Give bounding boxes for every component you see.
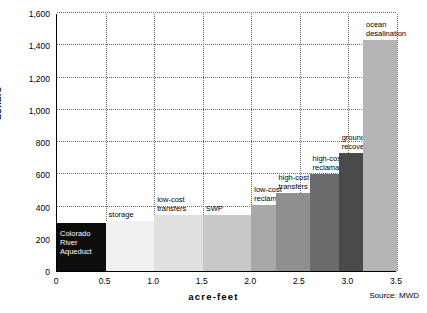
y-axis-tick: 1,400	[29, 41, 50, 51]
x-axis-tick: 0.5	[99, 276, 111, 286]
x-axis-tick: 2.0	[244, 276, 256, 286]
x-axis-tick: 3.0	[342, 276, 354, 286]
bar	[276, 193, 310, 271]
grid-line-horizontal	[57, 109, 396, 110]
bar	[251, 205, 275, 271]
x-axis-tick: 1.5	[196, 276, 208, 286]
x-axis-title: acre-feet	[0, 291, 427, 302]
y-axis-tick: 800	[36, 138, 50, 148]
y-axis-tick: 1,000	[29, 106, 50, 116]
bar	[363, 40, 397, 271]
y-axis-tick: 200	[36, 235, 50, 245]
plot-area: Colorado River Aqueductstoragelow-cost t…	[56, 14, 396, 272]
water-supply-cost-chart: dollars 02004006008001,0001,2001,4001,60…	[0, 0, 427, 313]
x-axis-tick: 1.0	[147, 276, 159, 286]
y-axis-tick: 600	[36, 170, 50, 180]
x-axis-tick: 2.5	[293, 276, 305, 286]
y-axis-tick-labels: 02004006008001,0001,2001,4001,600	[0, 14, 50, 272]
bar	[339, 153, 363, 271]
x-axis-tick: 3.5	[390, 276, 402, 286]
y-axis-tick: 1,200	[29, 74, 50, 84]
bar-label: ocean desalination	[366, 20, 426, 38]
x-axis-tick-labels: 00.51.01.52.02.53.03.5	[56, 276, 396, 290]
y-axis-tick: 0	[45, 267, 50, 277]
grid-line-horizontal	[57, 44, 396, 45]
grid-line-vertical	[397, 14, 398, 271]
source-note: Source: MWD	[369, 291, 419, 300]
y-axis-tick: 400	[36, 203, 50, 213]
x-axis-tick: 0	[54, 276, 59, 286]
bar	[106, 221, 155, 271]
grid-line-horizontal	[57, 12, 396, 13]
bar	[310, 174, 339, 271]
y-axis-tick: 1,600	[29, 9, 50, 19]
bar	[154, 215, 203, 271]
grid-line-horizontal	[57, 77, 396, 78]
bar	[203, 215, 252, 271]
